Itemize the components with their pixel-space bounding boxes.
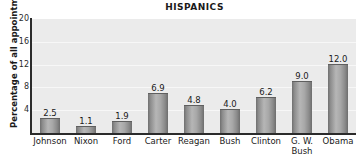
gridline [32,65,356,66]
bar-value-label: 1.1 [70,116,102,126]
bar [256,97,276,133]
bar [40,118,60,133]
bar [292,81,312,133]
x-axis-tick-label-line: Reagan [178,136,210,146]
x-axis-tick-label-line: Clinton [251,136,281,146]
bar-chart-figure: HISPANICS Percentage of all appointments… [0,0,361,166]
y-axis-tick-labels: 20161284 [0,0,29,166]
x-axis-tick-label-line: Ford [113,136,132,146]
y-axis-spine [30,18,32,135]
x-axis-tick-label-line: Carter [145,136,172,146]
bar-value-label: 2.5 [34,108,66,118]
bar [76,126,96,133]
x-axis-tick-label-line: G. W. [291,136,313,146]
chart-title: HISPANICS [33,2,356,12]
x-axis-tick-label-line: Johnson [33,136,67,146]
y-axis-tick-label: 8 [3,82,29,91]
bar-value-label: 6.2 [250,87,282,97]
y-axis-tick-label: 4 [3,105,29,114]
bar [184,105,204,133]
bar-value-label: 9.0 [286,71,318,81]
y-axis-tick-label: 20 [3,14,29,23]
x-axis-tick-label-line: Nixon [74,136,98,146]
y-axis-tick-label: 16 [3,37,29,46]
x-axis-tick-label-line: Bush [280,146,324,156]
x-axis-tick-label-line: Obama [323,136,354,146]
bar-value-label: 4.0 [214,99,246,109]
x-axis-tick-label-line: Bush [219,136,240,146]
bar-value-label: 4.8 [178,95,210,105]
x-axis-spine [30,133,356,135]
bar-value-label: 6.9 [142,83,174,93]
bar [112,121,132,133]
bar [328,64,348,133]
gridline [32,42,356,43]
bar-value-label: 1.9 [106,111,138,121]
bar [220,109,240,133]
y-axis-tick-label: 12 [3,60,29,69]
x-axis-tick-label: Obama [316,136,360,146]
bar-value-label: 12.0 [322,54,354,64]
bar [148,93,168,133]
